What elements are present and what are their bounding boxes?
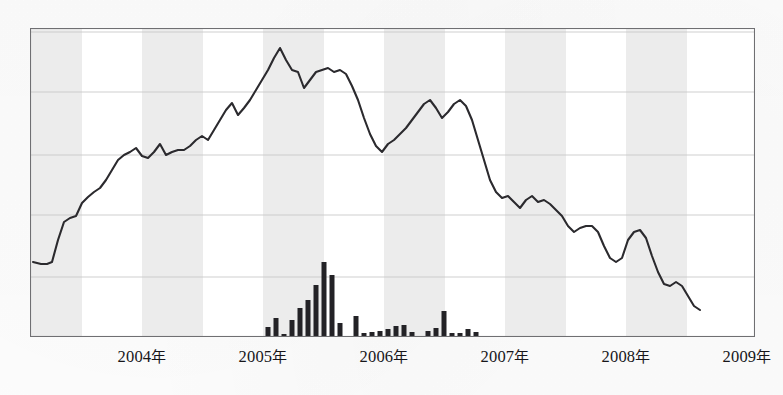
- bar: [322, 262, 327, 337]
- shaded-band-group: [30, 28, 687, 337]
- bar: [330, 275, 335, 337]
- x-axis-label-year: 2006: [359, 347, 393, 366]
- bar: [466, 329, 471, 337]
- bar: [306, 300, 311, 337]
- chart-figure: 2004年2005年2006年2007年2008年2009年: [0, 0, 783, 395]
- bar: [434, 328, 439, 337]
- shaded-band: [142, 28, 203, 337]
- x-axis-label-suffix: 年: [756, 348, 771, 366]
- x-axis-label-year: 2004: [117, 347, 151, 366]
- bar: [442, 311, 447, 337]
- x-axis-label-year: 2009: [722, 347, 756, 366]
- shaded-band: [626, 28, 687, 337]
- x-axis-label-suffix: 年: [514, 348, 529, 366]
- bar: [386, 329, 391, 337]
- line-series-group: [33, 48, 700, 310]
- bar: [338, 323, 343, 337]
- shaded-band: [384, 28, 445, 337]
- bar: [290, 320, 295, 337]
- plot-area: [30, 28, 755, 337]
- x-axis-label-2008: 2008年: [601, 345, 650, 367]
- bar: [354, 316, 359, 337]
- x-axis-label-2004: 2004年: [117, 345, 166, 367]
- bar: [314, 285, 319, 337]
- x-axis-label-year: 2007: [480, 347, 514, 366]
- x-axis-label-2009: 2009年: [722, 345, 771, 367]
- x-axis-label-year: 2008: [601, 347, 635, 366]
- x-axis-label-2005: 2005年: [238, 345, 287, 367]
- data-line: [33, 48, 700, 310]
- x-axis-label-suffix: 年: [272, 348, 287, 366]
- shaded-band: [30, 28, 82, 337]
- x-axis-label-suffix: 年: [635, 348, 650, 366]
- x-axis-label-2007: 2007年: [480, 345, 529, 367]
- bar: [394, 326, 399, 337]
- x-axis-label-2006: 2006年: [359, 345, 408, 367]
- x-axis-label-year: 2005: [238, 347, 272, 366]
- x-axis-label-suffix: 年: [151, 348, 166, 366]
- bar: [402, 325, 407, 337]
- x-axis-label-suffix: 年: [393, 348, 408, 366]
- bar: [274, 318, 279, 337]
- bar: [298, 308, 303, 337]
- bar: [266, 327, 271, 337]
- shaded-band: [505, 28, 566, 337]
- plot-svg: [30, 28, 755, 337]
